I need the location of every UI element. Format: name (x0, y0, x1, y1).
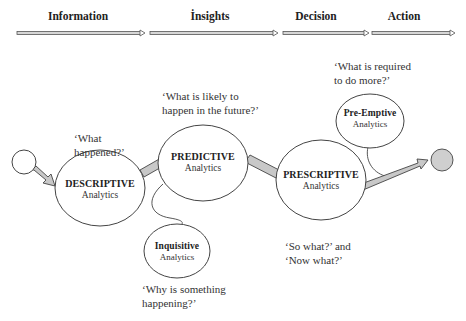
stage-label-decision: Decision (295, 10, 337, 22)
inquisitive-title: Inquisitive (155, 241, 199, 252)
prescriptive-node: PRESCRIPTIVE Analytics (283, 169, 359, 192)
end-arrow (361, 159, 428, 190)
prescriptive-title: PRESCRIPTIVE (283, 169, 359, 181)
stage-arrow-insights (150, 30, 278, 36)
inquisitive-subtitle: Analytics (155, 252, 199, 263)
question-what-happened: ‘What happened?’ (74, 131, 125, 160)
descriptive-subtitle: Analytics (65, 190, 134, 201)
stage-label-insights: İnsights (191, 10, 230, 22)
predictive-node: PREDICTIVE Analytics (171, 151, 235, 174)
question-why-happening: ‘Why is something happening?’ (142, 282, 226, 311)
predictive-prescriptive-bar (245, 155, 281, 178)
preemptive-title: Pre-Emptive (344, 108, 397, 119)
question-what-likely: ‘What is likely to happen in the future?… (162, 89, 259, 118)
start-circle (12, 150, 36, 174)
predictive-title: PREDICTIVE (171, 151, 235, 163)
start-arrow (32, 166, 55, 186)
question-so-what: ‘So what?’ and ‘Now what?’ (285, 239, 351, 268)
question-what-required: ‘What is required to do more?’ (334, 59, 411, 88)
descriptive-title: DESCRIPTIVE (65, 178, 134, 190)
stage-arrows (17, 30, 455, 36)
preemptive-node: Pre-Emptive Analytics (344, 108, 397, 130)
descriptive-node: DESCRIPTIVE Analytics (65, 178, 134, 201)
stage-arrow-decision (283, 30, 369, 36)
stage-label-action: Action (388, 10, 421, 22)
stage-arrow-information (17, 30, 145, 36)
prescriptive-subtitle: Analytics (283, 181, 359, 192)
preemptive-connector-line (367, 147, 385, 176)
inquisitive-node: Inquisitive Analytics (155, 241, 199, 263)
end-circle (431, 149, 453, 171)
predictive-subtitle: Analytics (171, 163, 235, 174)
stage-arrow-action (372, 30, 455, 36)
stage-label-information: Information (48, 10, 108, 22)
preemptive-subtitle: Analytics (344, 119, 397, 130)
